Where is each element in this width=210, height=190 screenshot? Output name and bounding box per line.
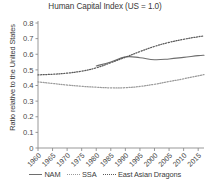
y-tick-label: 0.6 [23,50,34,59]
x-tick-label: 1985 [98,151,116,169]
y-tick-labels: 00.10.20.30.40.50.60.70.8 [23,19,34,153]
y-tick-label: 0.5 [23,66,34,75]
x-tick-label: 2010 [171,151,189,169]
y-tick-label: 0.2 [23,112,34,121]
legend-label-nam: NAM [44,170,60,179]
x-tick-label: 1965 [40,151,58,169]
x-tick-label: 1960 [25,151,43,169]
legend-label-east-asian-dragons: East Asian Dragons [118,170,181,179]
y-tick-label: 0.8 [23,19,34,28]
legend-item-nam: NAM [29,170,61,179]
legend-item-ssa: SSA [67,170,97,179]
legend-item-east-asian-dragons: East Asian Dragons [103,170,182,179]
x-tick-label: 1975 [69,151,87,169]
y-tick-label: 0.4 [23,81,34,90]
series-line-nam [96,55,204,66]
y-tick-label: 0 [29,144,33,153]
legend-line-swatch-ssa [67,174,80,175]
chart-figure: Human Capital Index (US = 1.0) Ratio rel… [0,0,210,190]
x-tick-labels: 1960196519701975198019851990199520002005… [25,151,203,169]
data-series-group [38,36,204,88]
x-tick-label: 2005 [156,151,174,169]
y-tick-label: 0.1 [23,128,34,137]
chart-legend: NAM SSA East Asian Dragons [0,170,210,179]
legend-label-ssa: SSA [82,170,97,179]
x-tick-label: 1980 [83,151,101,169]
x-tick-label: 1970 [54,151,72,169]
y-tick-label: 0.7 [23,34,34,43]
y-tick-label: 0.3 [23,97,34,106]
series-line-east-asian-dragons [38,36,204,75]
legend-line-swatch-east-asian-dragons [103,174,116,175]
x-tick-label: 2015 [185,151,203,169]
x-tick-label: 1995 [127,151,145,169]
legend-line-swatch-nam [29,174,42,175]
x-tick-label: 1990 [113,151,131,169]
plot-area: 00.10.20.30.40.50.60.70.8 19601965197019… [0,0,210,190]
x-tick-label: 2000 [142,151,160,169]
series-line-ssa [38,75,204,88]
